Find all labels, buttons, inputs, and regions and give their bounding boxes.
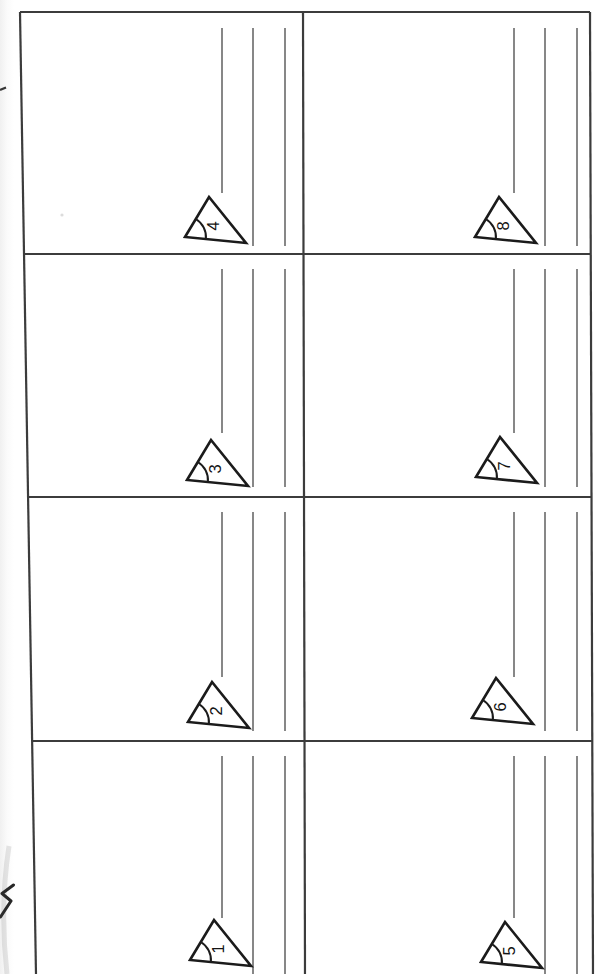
problem-number: 2 <box>207 706 225 715</box>
paper-speck <box>60 213 63 216</box>
problem-number: 6 <box>491 702 509 711</box>
problem-number: 7 <box>495 461 513 470</box>
triangle-outline <box>185 197 246 243</box>
triangle-outline <box>475 197 536 243</box>
grid-border-line <box>590 12 593 974</box>
problem-number: 3 <box>206 464 224 473</box>
grid-border-line <box>20 12 36 974</box>
triangle-outline <box>476 437 537 483</box>
triangle-outline <box>187 440 248 486</box>
worksheet-grid: 48372615 <box>0 0 598 974</box>
problem-number: 5 <box>500 946 518 955</box>
problem-number: 1 <box>209 944 227 953</box>
problem-number: 8 <box>494 221 512 230</box>
scanned-worksheet-page: 48372615 <box>0 0 598 974</box>
grid-divider-line <box>303 12 305 974</box>
problem-number: 4 <box>204 221 222 230</box>
triangle-outline <box>472 678 533 724</box>
edge-artifact-tick <box>0 88 6 91</box>
triangle-outline <box>481 922 542 968</box>
triangle-outline <box>188 682 249 728</box>
triangle-outline <box>190 920 251 966</box>
